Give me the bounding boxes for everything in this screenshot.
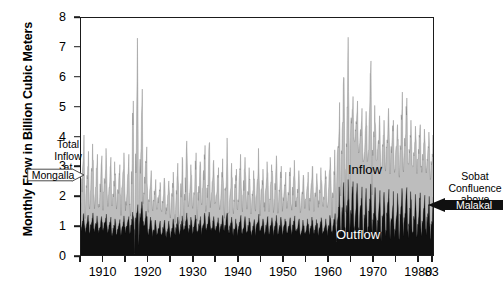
x-tick-mark-1935 xyxy=(214,256,216,262)
x-tick-label-1960: 1960 xyxy=(314,265,342,279)
x-tick-mark-1960 xyxy=(327,256,329,262)
x-tick-label-1920: 1920 xyxy=(134,265,162,279)
chart-figure: Monthly Flow in Billion Cubic Meters 012… xyxy=(0,0,503,289)
x-tick-label-1983: 83 xyxy=(425,265,439,279)
x-tick-mark-1965 xyxy=(350,256,352,262)
malakal-banner-label: Malakal xyxy=(446,199,502,211)
x-tick-mark-1950 xyxy=(282,256,284,262)
x-tick-label-1940: 1940 xyxy=(224,265,252,279)
x-tick-label-1910: 1910 xyxy=(89,265,117,279)
series-canvas xyxy=(81,18,433,255)
x-tick-mark-1910 xyxy=(102,256,104,262)
x-tick-label-1930: 1930 xyxy=(179,265,207,279)
y-tick-label-1: 1 xyxy=(26,219,66,233)
x-tick-mark-1980 xyxy=(417,256,419,262)
x-tick-mark-1930 xyxy=(192,256,194,262)
malakal-arrow-banner: Malakal xyxy=(428,197,503,213)
x-tick-mark-1983 xyxy=(431,256,433,262)
x-tick-mark-1920 xyxy=(147,256,149,262)
x-tick-label-1950: 1950 xyxy=(269,265,297,279)
x-tick-mark-1925 xyxy=(169,256,171,262)
x-tick-mark-1905 xyxy=(79,256,81,262)
x-tick-mark-1940 xyxy=(237,256,239,262)
mongalla-arrow-banner: Mongalla xyxy=(27,168,85,182)
inflow-series-label: Inflow xyxy=(348,162,382,177)
y-tick-label-7: 7 xyxy=(26,40,66,54)
y-tick-label-8: 8 xyxy=(26,10,66,24)
malakal-callout-line1: Sobat xyxy=(447,171,503,183)
y-tick-label-2: 2 xyxy=(26,189,66,203)
x-tick-mark-1945 xyxy=(260,256,262,262)
y-tick-label-6: 6 xyxy=(26,70,66,84)
x-tick-mark-1975 xyxy=(395,256,397,262)
mongalla-callout-line1: Total xyxy=(28,139,108,151)
outflow-series-label: Outflow xyxy=(336,227,380,242)
mongalla-banner-label: Mongalla xyxy=(27,169,79,181)
plot-area xyxy=(80,17,434,256)
x-tick-mark-1915 xyxy=(124,256,126,262)
x-tick-mark-1970 xyxy=(372,256,374,262)
x-tick-mark-1955 xyxy=(305,256,307,262)
y-tick-label-0: 0 xyxy=(26,249,66,263)
x-tick-label-1970: 1970 xyxy=(359,265,387,279)
y-tick-label-5: 5 xyxy=(26,100,66,114)
